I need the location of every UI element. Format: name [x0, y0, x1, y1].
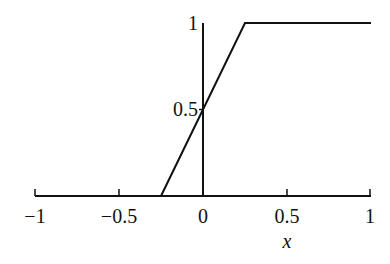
x-tick-label: 1: [365, 205, 375, 227]
y-tick-label: 0.5: [173, 98, 198, 120]
x-tick-label: 0: [198, 205, 208, 227]
y-tick-label: 1: [188, 12, 198, 34]
x-tick-label: −1: [24, 205, 45, 227]
x-tick-label: −0.5: [101, 205, 137, 227]
chart: −1 −0.5 0 0.5 1 1 0.5 x: [0, 0, 390, 264]
x-axis-label: x: [282, 230, 292, 252]
x-tick-label: 0.5: [275, 205, 300, 227]
